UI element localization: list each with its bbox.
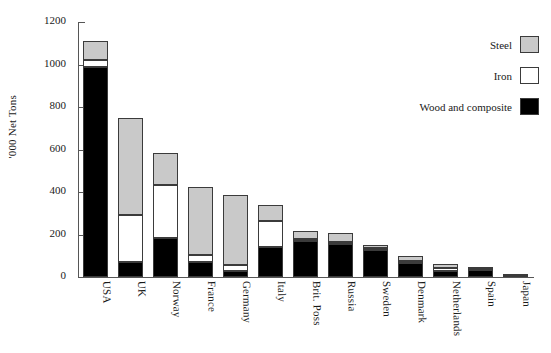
bar-segment-wood-and-composite (153, 238, 178, 277)
bar-segment-wood-and-composite (433, 271, 458, 277)
bar-segment-steel (153, 153, 178, 185)
bar-segment-steel (118, 118, 143, 216)
bar-group (433, 264, 458, 277)
bar-segment-wood-and-composite (223, 271, 248, 277)
bar-segment-steel (328, 233, 353, 241)
stacked-bar-chart: '000 Net Tons 020040060080010001200 USAU… (0, 0, 551, 353)
y-tick-label: 600 (50, 142, 67, 154)
legend-item: Iron (349, 67, 539, 84)
bar-segment-wood-and-composite (293, 241, 318, 277)
x-axis-label: Norway (171, 281, 184, 318)
bar-segment-steel (293, 231, 318, 239)
bar-segment-steel (258, 205, 283, 220)
x-axis-label: Netherlands (451, 281, 464, 337)
bar-segment-wood-and-composite (83, 67, 108, 277)
bar-segment-wood-and-composite (503, 275, 528, 277)
legend-item: Wood and composite (349, 98, 539, 115)
steel-swatch (520, 36, 539, 53)
x-axis-label: Sweden (381, 281, 394, 317)
bar-segment-iron (188, 255, 213, 262)
bar-segment-steel (188, 187, 213, 255)
bar-group (188, 187, 213, 277)
x-axis-label: France (206, 281, 219, 312)
x-axis-line (78, 277, 534, 278)
bar-group (398, 256, 423, 277)
bar-segment-wood-and-composite (363, 250, 388, 277)
x-axis-label: UK (136, 281, 148, 298)
bar-group (328, 233, 353, 277)
bar-segment-steel (223, 195, 248, 265)
bar-segment-iron (258, 221, 283, 248)
x-axis-label: Brit. Poss (311, 281, 324, 326)
x-axis-label: Germany (241, 281, 254, 324)
legend-label: Iron (494, 70, 512, 82)
x-axis-label: Italy (276, 281, 288, 302)
y-tick-label: 200 (50, 227, 67, 239)
bar-segment-iron (153, 185, 178, 238)
y-axis-title: '000 Net Tons (6, 95, 22, 159)
iron-swatch (520, 67, 539, 84)
bar-segment-wood-and-composite (468, 270, 493, 277)
y-tick-mark (78, 277, 85, 278)
chart-legend: SteelIronWood and composite (349, 36, 539, 129)
bar-segment-wood-and-composite (398, 263, 423, 277)
y-tick-label: 400 (50, 184, 67, 196)
bar-group (293, 231, 318, 277)
bar-group (223, 195, 248, 277)
y-tick-label: 1000 (44, 57, 66, 69)
wood-swatch (520, 98, 539, 115)
bar-segment-wood-and-composite (118, 262, 143, 277)
x-axis-label: USA (101, 281, 113, 304)
legend-label: Steel (490, 39, 512, 51)
bar-group (153, 153, 178, 277)
bar-group (503, 276, 528, 277)
x-axis-label: Japan (521, 281, 533, 307)
x-axis-label: Denmark (416, 281, 429, 324)
y-tick-label: 800 (50, 99, 67, 111)
legend-item: Steel (349, 36, 539, 53)
bar-group (468, 268, 493, 277)
bar-group (363, 245, 388, 277)
x-axis-label: Spain (486, 281, 498, 307)
y-tick-label: 1200 (44, 14, 66, 26)
y-tick-label: 0 (61, 269, 67, 281)
bar-group (83, 41, 108, 277)
bar-segment-wood-and-composite (258, 247, 283, 277)
x-axis-label: Russia (346, 281, 359, 312)
bar-group (258, 205, 283, 277)
bar-group (118, 118, 143, 277)
bar-segment-wood-and-composite (188, 262, 213, 277)
x-axis-labels: USAUKNorwayFranceGermanyItalyBrit. PossR… (78, 281, 533, 353)
legend-label: Wood and composite (419, 101, 512, 113)
bar-segment-wood-and-composite (328, 244, 353, 277)
bar-segment-steel (83, 41, 108, 60)
bar-segment-iron (118, 215, 143, 262)
